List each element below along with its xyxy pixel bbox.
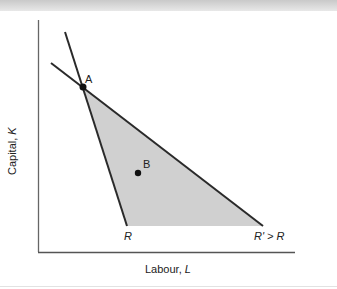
line-r-prime-label: R' > R: [254, 230, 285, 242]
x-axis-label-var: L: [185, 263, 191, 275]
y-axis-label-var: K: [6, 127, 18, 134]
point-b-dot: [135, 170, 141, 176]
bottom-rule: [0, 286, 337, 287]
line-r-label: R: [124, 230, 132, 242]
point-a-label: A: [85, 73, 92, 85]
x-axis-label-text: Labour,: [145, 263, 185, 275]
y-axis-label-text: Capital,: [6, 135, 18, 175]
diagram-canvas: [0, 0, 337, 289]
x-axis-label: Labour, L: [145, 263, 191, 275]
point-b-label: B: [143, 158, 150, 170]
y-axis-label: Capital, K: [6, 127, 18, 175]
